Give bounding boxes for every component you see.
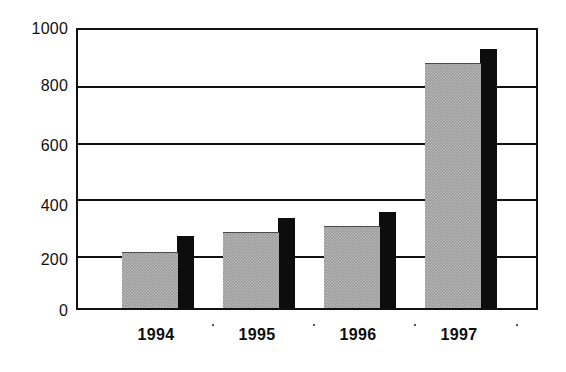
bar-1995-side	[278, 222, 295, 308]
x-tick-mark-1	[212, 324, 214, 326]
x-tick-mark-2	[313, 324, 315, 326]
bar-1994-face	[122, 252, 178, 308]
y-tick-label-0: 0	[0, 303, 68, 319]
x-tick-mark-3	[414, 324, 416, 326]
x-tick-label-1995: 1995	[213, 326, 301, 344]
bar-1997-face	[425, 63, 481, 308]
bars-layer	[78, 30, 536, 308]
bar-1995[interactable]	[223, 218, 295, 308]
bar-1995-face	[223, 232, 279, 308]
bar-chart: 1000 800 600 400 200 0	[0, 0, 566, 372]
bar-1994-side	[177, 240, 194, 308]
plot-area	[76, 28, 538, 310]
bar-1996-side	[379, 216, 396, 308]
bar-1997[interactable]	[425, 49, 497, 308]
y-tick-label-200: 200	[0, 252, 68, 268]
x-tick-label-1994: 1994	[112, 326, 200, 344]
bar-1997-side	[480, 53, 497, 308]
bar-1996[interactable]	[324, 212, 396, 308]
bar-1994[interactable]	[122, 236, 194, 308]
x-axis-labels: 1994 1995 1996 1997	[76, 316, 538, 352]
x-tick-label-1996: 1996	[314, 326, 402, 344]
x-tick-mark-4	[516, 324, 518, 326]
bar-1996-face	[324, 226, 380, 308]
y-tick-label-600: 600	[0, 138, 68, 154]
y-tick-label-1000: 1000	[0, 21, 68, 37]
y-tick-label-400: 400	[0, 198, 68, 214]
y-axis-labels: 1000 800 600 400 200 0	[0, 0, 68, 372]
y-tick-label-800: 800	[0, 78, 68, 94]
x-tick-label-1997: 1997	[415, 326, 503, 344]
